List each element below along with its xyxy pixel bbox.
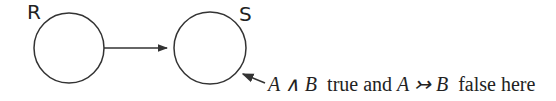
node-s-circle bbox=[174, 12, 246, 84]
node-s-label: S bbox=[239, 2, 252, 26]
node-r-label: R bbox=[27, 0, 41, 24]
annotation-formula-1: A ∧ B bbox=[268, 73, 317, 95]
annotation-formula-2: A ↣ B bbox=[397, 73, 448, 95]
annotation-pointer-arrow bbox=[243, 74, 265, 83]
annotation-word-1: true and bbox=[327, 73, 392, 95]
annotation-text: A ∧ B true and A ↣ B false here bbox=[268, 72, 535, 96]
node-r-circle bbox=[34, 13, 104, 83]
annotation-word-2: false here bbox=[458, 73, 535, 95]
